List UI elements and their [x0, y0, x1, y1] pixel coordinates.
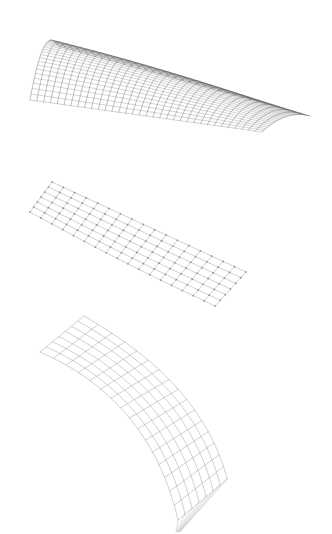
figure-sheet: Wireframe surface meshes Dense ruled bar…: [0, 0, 332, 534]
mesh-vertex: [88, 235, 90, 237]
mesh-vertex: [51, 223, 53, 225]
mesh-vertex: [222, 261, 224, 263]
mesh-vertex: [147, 257, 149, 259]
mesh-vertex: [202, 283, 204, 285]
mesh-longitudinal-line: [84, 316, 227, 479]
mesh-cross-line: [78, 342, 124, 373]
mesh-vertex: [179, 256, 181, 258]
mesh-vertex: [149, 274, 151, 276]
mesh-vertex: [165, 234, 167, 236]
mesh-vertex: [85, 197, 87, 199]
mesh-vertex: [171, 284, 173, 286]
mesh-vertex: [33, 206, 35, 208]
mesh-vertex: [116, 257, 118, 259]
mesh-vertex: [152, 251, 154, 253]
mesh-vertex: [62, 229, 64, 231]
mesh-rib: [262, 115, 310, 132]
mesh-vertex: [44, 191, 46, 193]
mesh-vertex: [163, 257, 165, 259]
mesh-vertex: [74, 213, 76, 215]
mesh-vertex: [192, 295, 194, 297]
flat-tapering-quad-mesh: [29, 181, 247, 307]
mesh-cross-line: [121, 379, 169, 407]
mesh-rib: [180, 85, 221, 121]
mesh-cross-line: [159, 432, 208, 465]
mesh-vertex: [121, 252, 123, 254]
mesh-vertex: [219, 283, 221, 285]
mesh-generator: [42, 52, 282, 118]
mesh-vertex: [235, 282, 237, 284]
mesh-row-line: [30, 212, 215, 306]
mesh-vertex: [120, 213, 122, 215]
mesh-generator: [58, 46, 310, 116]
mesh-vertex: [207, 278, 209, 280]
mesh-vertex: [213, 289, 215, 291]
mesh-vertex: [156, 246, 158, 248]
mesh-vertex: [212, 272, 214, 274]
mesh-row-line: [41, 197, 231, 289]
mesh-rib: [201, 92, 244, 124]
mesh-vertex: [175, 279, 177, 281]
mesh-vertex: [188, 245, 190, 247]
mesh-vertex: [182, 290, 184, 292]
mesh-vertex: [143, 263, 145, 265]
mesh-vertex: [85, 219, 87, 221]
mesh-vertex: [142, 224, 144, 226]
mesh-tail-strand: [179, 491, 213, 532]
mesh-generator: [46, 43, 290, 115]
mesh-row-line: [34, 207, 221, 300]
mesh-vertex: [77, 229, 79, 231]
mesh-vertex: [134, 235, 136, 237]
mesh-vertex: [149, 235, 151, 237]
mesh-vertex: [138, 268, 140, 270]
mesh-vertex: [230, 288, 232, 290]
mesh-vertex: [47, 186, 49, 188]
mesh-vertex: [190, 261, 192, 263]
mesh-vertex: [172, 245, 174, 247]
mesh-vertex: [70, 218, 72, 220]
mesh-vertex: [51, 202, 53, 204]
mesh-vertex: [177, 239, 179, 241]
mesh-cross-line: [66, 333, 112, 365]
mesh-vertex: [100, 219, 102, 221]
mesh-vertex: [203, 300, 205, 302]
mesh-vertex: [93, 208, 95, 210]
mesh-vertex: [186, 284, 188, 286]
mesh-vertex: [200, 250, 202, 252]
mesh-vertex: [59, 213, 61, 215]
mesh-cross-line: [138, 400, 187, 429]
mesh-cross-line: [145, 410, 194, 440]
mesh-vertex: [219, 299, 221, 301]
mesh-vertex: [183, 250, 185, 252]
mesh-vertex: [59, 192, 61, 194]
mesh-vertex: [240, 277, 242, 279]
mesh-vertex: [66, 202, 68, 204]
mesh-vertex: [92, 230, 94, 232]
mesh-generator: [45, 45, 288, 116]
mesh-vertex: [96, 224, 98, 226]
mesh-vertex: [70, 197, 72, 199]
mesh-longitudinal-line: [40, 352, 178, 520]
mesh-vertex: [153, 268, 155, 270]
mesh-vertex: [44, 212, 46, 214]
mesh-generator: [38, 65, 275, 122]
mesh-vertex: [127, 263, 129, 265]
mesh-vertex: [78, 208, 80, 210]
mesh-vertex: [55, 218, 57, 220]
wireframe-canvas: [0, 0, 332, 534]
mesh-vertex: [201, 267, 203, 269]
mesh-vertex: [103, 235, 105, 237]
mesh-vertex: [122, 229, 124, 231]
mesh-vertex: [132, 257, 134, 259]
mesh-vertex: [110, 246, 112, 248]
mesh-vertex: [36, 201, 38, 203]
mesh-longitudinal-line: [65, 331, 206, 496]
mesh-vertex: [66, 224, 68, 226]
mesh-vertex: [81, 224, 83, 226]
mesh-vertex: [167, 251, 169, 253]
mesh-vertex: [160, 279, 162, 281]
mesh-cross-line: [165, 443, 214, 477]
mesh-vertex: [138, 229, 140, 231]
mesh-vertex: [224, 277, 226, 279]
mesh-vertex: [127, 224, 129, 226]
